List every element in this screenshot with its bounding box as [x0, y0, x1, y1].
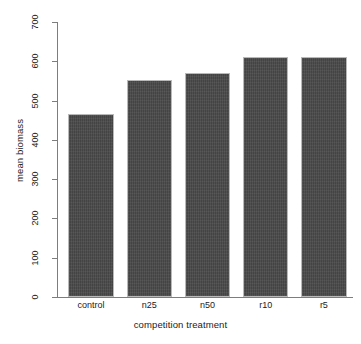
y-axis-tick-label-text: 600	[30, 54, 40, 69]
bar	[243, 57, 288, 297]
y-axis-tick-label-text: 700	[30, 14, 40, 29]
x-axis-line	[57, 297, 353, 298]
y-axis-tick-label: 100	[22, 245, 48, 271]
y-axis-tick-label: 200	[22, 205, 48, 231]
y-axis-tick-label-text: 100	[30, 250, 40, 265]
y-axis-tick-label: 0	[22, 284, 48, 310]
y-axis-tick	[52, 61, 57, 62]
x-axis-tick-label: r5	[295, 300, 353, 310]
y-axis-tick-label: 500	[22, 88, 48, 114]
y-axis-tick-label: 300	[22, 166, 48, 192]
bar	[68, 114, 113, 297]
x-axis-tick-label: r10	[237, 300, 295, 310]
y-axis-tick	[52, 101, 57, 102]
y-axis-tick-label: 400	[22, 127, 48, 153]
x-axis-tick-label: n50	[178, 300, 236, 310]
bar-chart: mean biomass 0100200300400500600700 cont…	[0, 0, 361, 344]
x-axis-title: competition treatment	[0, 319, 361, 330]
bar	[185, 73, 230, 297]
y-axis-line	[57, 22, 58, 298]
y-axis-tick-label-text: 500	[30, 93, 40, 108]
y-axis-tick-label: 600	[22, 48, 48, 74]
y-axis-tick-label: 700	[22, 9, 48, 35]
y-axis-tick	[52, 179, 57, 180]
y-axis-tick	[52, 258, 57, 259]
y-axis-tick-label-text: 300	[30, 172, 40, 187]
bar	[301, 57, 346, 297]
bar	[127, 80, 172, 297]
y-axis-tick	[52, 22, 57, 23]
y-axis-tick	[52, 140, 57, 141]
x-axis-tick-label: n25	[120, 300, 178, 310]
y-axis-tick-label-text: 200	[30, 211, 40, 226]
y-axis-tick-label-text: 400	[30, 132, 40, 147]
x-axis-tick-label: control	[62, 300, 120, 310]
y-axis-tick	[52, 218, 57, 219]
y-axis-tick-label-text: 0	[30, 294, 40, 299]
